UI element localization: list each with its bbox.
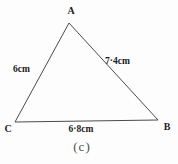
side-label-ab: 7·4cm xyxy=(105,57,130,67)
vertex-label-c: C xyxy=(0,124,16,134)
triangle-outline xyxy=(15,23,158,122)
side-label-ca: 6cm xyxy=(13,65,30,75)
figure-caption: (c) xyxy=(64,140,100,153)
side-label-cb: 6·8cm xyxy=(61,125,101,135)
vertex-label-b: B xyxy=(159,122,175,132)
vertex-label-a: A xyxy=(63,6,79,16)
triangle-figure: A B C 6cm 7·4cm 6·8cm (c) xyxy=(0,0,178,164)
